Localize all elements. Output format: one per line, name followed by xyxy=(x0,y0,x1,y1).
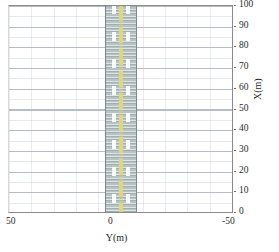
y-axis-tick-label: 40 xyxy=(239,124,249,133)
y-axis-tick xyxy=(234,46,236,47)
y-axis-tick-label: 50 xyxy=(239,104,249,113)
y-axis-title: X(m) xyxy=(252,78,263,100)
y-axis-tick xyxy=(234,129,236,130)
x-axis-label-left: 50 xyxy=(6,216,16,226)
y-axis-tick xyxy=(234,171,236,172)
x-axis-label-right: -50 xyxy=(222,216,235,226)
y-axis-tick xyxy=(234,5,236,6)
y-axis-tick xyxy=(234,67,236,68)
y-axis-tick-label: 60 xyxy=(239,83,249,92)
y-axis-tick xyxy=(234,88,236,89)
y-axis-tick xyxy=(234,109,236,110)
y-axis-tick-label: 70 xyxy=(239,62,249,71)
lane-marking-left xyxy=(112,5,116,213)
y-axis-tick-label: 90 xyxy=(239,21,249,30)
y-axis-tick-label: 20 xyxy=(239,166,249,175)
y-axis-tick xyxy=(234,191,236,192)
y-axis-tick-label: 10 xyxy=(239,186,249,195)
plot-area xyxy=(8,5,233,213)
y-axis-tick xyxy=(234,150,236,151)
x-axis-label-mid: 0 xyxy=(108,216,113,226)
y-axis-tick-label: 80 xyxy=(239,41,249,50)
y-axis-tick-label: 100 xyxy=(239,0,253,9)
figure: 1009080706050403020100 50 0 -50 Y(m) X(m… xyxy=(0,0,279,252)
center-line-marking xyxy=(119,5,123,213)
lane-marking-right xyxy=(126,5,130,213)
y-axis-tick xyxy=(234,212,236,213)
y-axis-tick xyxy=(234,26,236,27)
y-axis-tick-label: 30 xyxy=(239,145,249,154)
x-axis-title: Y(m) xyxy=(0,232,233,243)
y-axis-tick-label: 0 xyxy=(239,207,244,216)
road-corridor-band xyxy=(105,5,137,213)
